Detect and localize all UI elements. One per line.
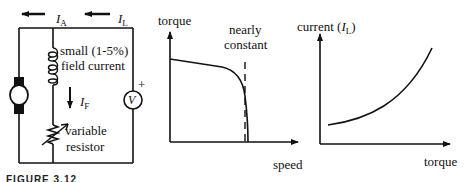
- graph1-xlabel: speed: [273, 158, 303, 172]
- ia-label: IA: [56, 12, 67, 30]
- current-torque-curve: [328, 48, 432, 125]
- field-note-line2: field current: [61, 59, 125, 73]
- current-torque-graph: [320, 34, 450, 144]
- if-label: IF: [80, 95, 89, 113]
- torque-speed-curve: [170, 59, 248, 142]
- graph1-annotation-line1: nearly: [229, 23, 261, 37]
- polarity-plus: +: [138, 78, 145, 92]
- resistor-label-line2: resistor: [66, 140, 104, 154]
- graph1-ylabel: torque: [158, 14, 191, 28]
- field-note-line1: small (1-5%): [60, 44, 128, 58]
- field-coil-icon: [49, 48, 58, 85]
- graph1-annotation-line2: constant: [224, 38, 267, 52]
- figure-caption: FIGURE 3.12: [6, 174, 77, 182]
- graph2-ylabel: current (IL): [297, 20, 356, 38]
- graph2-xlabel: torque: [424, 155, 457, 169]
- il-label: IL: [118, 12, 128, 30]
- resistor-label-line1: variable: [65, 124, 107, 138]
- generator-icon: [10, 77, 28, 114]
- voltmeter-label: V: [128, 93, 135, 107]
